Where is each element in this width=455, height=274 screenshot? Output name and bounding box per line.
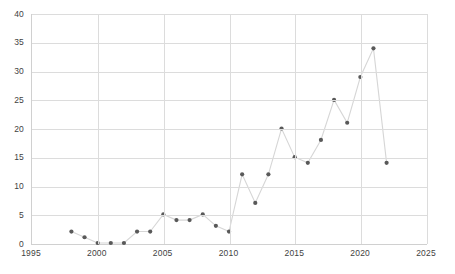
data-point-marker [174, 218, 178, 222]
y-axis-tick-label: 40 [0, 10, 24, 19]
data-point-marker [385, 161, 389, 165]
data-point-marker [240, 172, 244, 176]
x-axis-tick-label: 2000 [75, 249, 119, 258]
data-point-marker [253, 201, 257, 205]
data-point-marker [319, 138, 323, 142]
gridline-vertical [295, 14, 296, 244]
chart-figure: 0510152025303540199520002005201020152020… [0, 0, 455, 274]
data-point-marker [306, 161, 310, 165]
gridline-vertical [230, 14, 231, 244]
y-axis-tick-label: 5 [0, 211, 24, 220]
x-axis-tick-label: 1995 [9, 249, 53, 258]
data-point-marker [371, 46, 375, 50]
y-axis-tick-label: 20 [0, 125, 24, 134]
data-point-marker [135, 229, 139, 233]
data-point-marker [214, 224, 218, 228]
data-point-marker [345, 121, 349, 125]
data-point-marker [188, 218, 192, 222]
data-point-marker [109, 241, 113, 245]
gridline-vertical [98, 14, 99, 244]
x-axis-tick-label: 2015 [272, 249, 316, 258]
data-point-marker [148, 229, 152, 233]
y-axis-tick-label: 30 [0, 67, 24, 76]
gridline-vertical [427, 14, 428, 244]
data-point-marker [266, 172, 270, 176]
gridline-vertical [164, 14, 165, 244]
data-point-marker [69, 229, 73, 233]
data-point-marker [122, 241, 126, 245]
x-axis-tick-label: 2020 [338, 249, 382, 258]
x-axis-tick-label: 2010 [207, 249, 251, 258]
plot-area [31, 14, 427, 245]
y-axis-tick-label: 10 [0, 182, 24, 191]
y-axis-tick-label: 25 [0, 96, 24, 105]
y-axis-tick-label: 35 [0, 38, 24, 47]
gridline-vertical [361, 14, 362, 244]
data-point-marker [82, 235, 86, 239]
x-axis-tick-label: 2025 [404, 249, 448, 258]
y-axis-tick-label: 15 [0, 153, 24, 162]
x-axis-tick-label: 2005 [141, 249, 185, 258]
series-line [71, 48, 386, 243]
